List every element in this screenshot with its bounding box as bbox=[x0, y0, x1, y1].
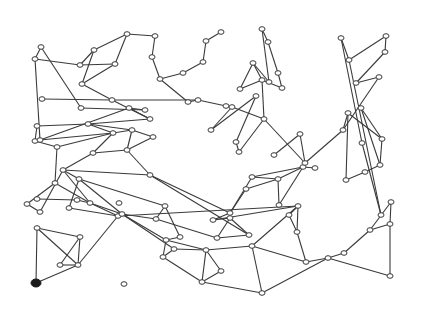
graph-node bbox=[259, 27, 265, 32]
graph-node bbox=[249, 175, 255, 180]
graph-node bbox=[237, 87, 243, 92]
graph-node bbox=[87, 201, 93, 206]
graph-edge bbox=[203, 41, 206, 62]
graph-node bbox=[340, 128, 346, 133]
graph-node bbox=[259, 78, 265, 83]
graph-node bbox=[160, 255, 166, 260]
graph-edges bbox=[27, 29, 391, 293]
graph-edge bbox=[82, 50, 94, 84]
graph-node bbox=[265, 40, 271, 45]
graph-edge bbox=[297, 232, 306, 262]
graph-edge bbox=[152, 57, 160, 79]
graph-node bbox=[376, 75, 382, 80]
graph-edge bbox=[82, 84, 112, 100]
root-node bbox=[31, 279, 41, 287]
graph-node bbox=[54, 145, 60, 150]
graph-edge bbox=[88, 124, 132, 130]
graph-node bbox=[38, 45, 44, 50]
graph-node bbox=[271, 153, 277, 158]
graph-node bbox=[210, 218, 216, 223]
graph-node bbox=[343, 178, 349, 183]
graph-node bbox=[34, 197, 40, 202]
graph-node bbox=[236, 150, 242, 155]
graph-edge bbox=[37, 228, 78, 265]
graph-node bbox=[195, 98, 201, 103]
graph-edge bbox=[328, 258, 390, 276]
graph-node bbox=[208, 128, 214, 133]
graph-node bbox=[275, 71, 281, 76]
graph-edge bbox=[278, 179, 279, 205]
graph-node bbox=[109, 98, 115, 103]
graph-node bbox=[279, 86, 285, 91]
graph-node bbox=[121, 282, 127, 287]
graph-edge bbox=[198, 100, 226, 106]
graph-node bbox=[388, 200, 394, 205]
graph-node bbox=[124, 148, 130, 153]
graph-edge bbox=[35, 59, 80, 65]
graph-node bbox=[338, 36, 344, 41]
graph-node bbox=[124, 32, 130, 37]
graph-node bbox=[227, 216, 233, 221]
graph-node bbox=[126, 106, 132, 111]
graph-node bbox=[341, 251, 347, 256]
graph-node bbox=[218, 269, 224, 274]
graph-node bbox=[91, 48, 97, 53]
graph-edge bbox=[232, 107, 264, 119]
graph-edge bbox=[344, 230, 370, 253]
graph-edge bbox=[80, 64, 115, 65]
graph-node bbox=[379, 137, 385, 142]
graph-edge bbox=[122, 214, 174, 249]
graph-node bbox=[218, 30, 224, 35]
graph-node bbox=[359, 141, 365, 146]
graph-node bbox=[353, 81, 359, 86]
graph-node bbox=[34, 226, 40, 231]
graph-edge bbox=[268, 42, 278, 73]
graph-node bbox=[57, 263, 63, 268]
graph-node bbox=[203, 39, 209, 44]
graph-node bbox=[39, 97, 45, 102]
graph-node bbox=[227, 211, 233, 216]
graph-edge bbox=[127, 137, 153, 150]
graph-edge bbox=[156, 219, 217, 238]
graph-node bbox=[162, 204, 168, 209]
graph-node bbox=[90, 151, 96, 156]
graph-node bbox=[52, 181, 58, 186]
graph-node bbox=[149, 55, 155, 60]
graph-edge bbox=[217, 218, 230, 238]
graph-node bbox=[294, 230, 300, 235]
graph-node bbox=[150, 135, 156, 140]
graph-node bbox=[157, 77, 163, 82]
graph-edge bbox=[239, 119, 264, 152]
graph-node bbox=[37, 210, 43, 215]
graph-edge bbox=[361, 108, 380, 165]
graph-node bbox=[383, 34, 389, 39]
graph-edge bbox=[127, 34, 155, 36]
graph-edge bbox=[57, 133, 113, 147]
graph-node bbox=[297, 132, 303, 137]
graph-edge bbox=[206, 250, 221, 271]
graph-edge bbox=[160, 73, 183, 79]
graph-node bbox=[261, 117, 267, 122]
graph-node bbox=[76, 177, 82, 182]
graph-edge bbox=[152, 36, 155, 57]
graph-edge bbox=[79, 179, 122, 214]
graph-node bbox=[377, 163, 383, 168]
graph-node bbox=[77, 63, 83, 68]
graph-edge bbox=[82, 64, 115, 84]
graph-edge bbox=[362, 143, 381, 215]
graph-node bbox=[249, 244, 255, 249]
graph-node bbox=[85, 122, 91, 127]
graph-node bbox=[200, 60, 206, 65]
graph-node bbox=[24, 202, 30, 207]
graph-node bbox=[295, 204, 301, 209]
graph-edge bbox=[163, 257, 202, 282]
graph-node bbox=[259, 291, 265, 296]
graph-node bbox=[112, 62, 118, 67]
graph-edge bbox=[63, 153, 93, 170]
graph-node bbox=[325, 256, 331, 261]
graph-node bbox=[116, 201, 122, 206]
graph-node bbox=[78, 106, 84, 111]
graph-edge bbox=[202, 250, 206, 282]
network-graph bbox=[0, 0, 435, 328]
graph-edge bbox=[211, 107, 232, 130]
